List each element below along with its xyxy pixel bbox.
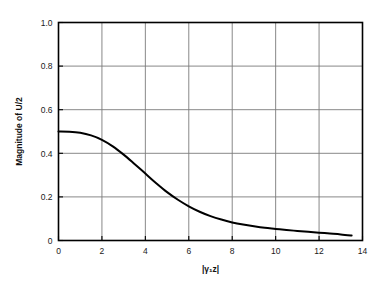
chart-figure: 02468101214 00.20.40.60.81.0 |γ₁z| Magni… [0, 0, 384, 288]
x-tick-label: 8 [230, 246, 235, 256]
x-tick-label: 0 [56, 246, 61, 256]
line-chart: 02468101214 00.20.40.60.81.0 |γ₁z| Magni… [0, 0, 384, 288]
x-tick-label: 14 [358, 246, 368, 256]
y-tick-label: 0 [48, 236, 53, 246]
y-tick-label: 1.0 [41, 18, 53, 28]
x-tick-label: 12 [314, 246, 324, 256]
y-tick-label: 0.4 [41, 149, 53, 159]
y-tick-label: 0.6 [41, 105, 53, 115]
y-axis-label: Magnitude of U/2 [14, 97, 24, 166]
x-tick-label: 10 [271, 246, 281, 256]
x-tick-label: 4 [143, 246, 148, 256]
y-tick-label: 0.2 [41, 192, 53, 202]
x-tick-label: 6 [186, 246, 191, 256]
x-axis-label: |γ₁z| [202, 264, 219, 274]
y-tick-label: 0.8 [41, 61, 53, 71]
x-tick-label: 2 [100, 246, 105, 256]
